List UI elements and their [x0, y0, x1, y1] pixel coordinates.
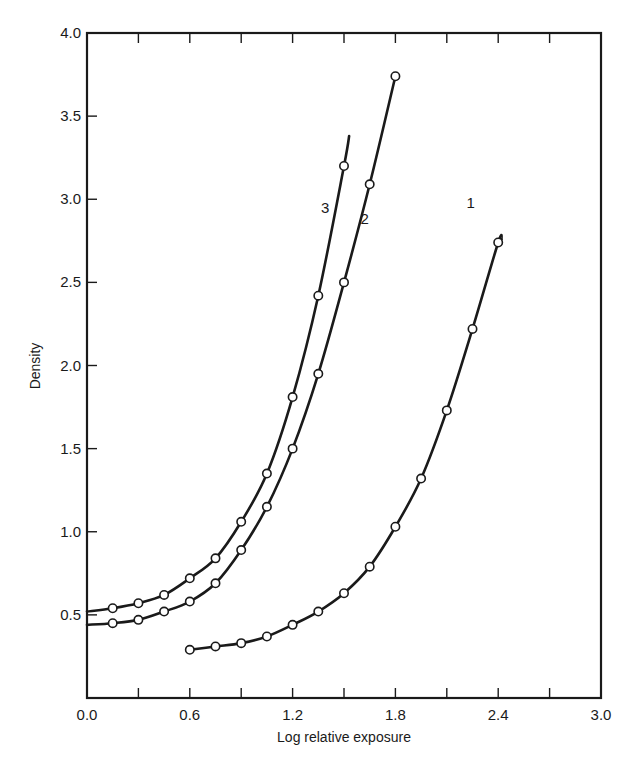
- data-point-marker: [211, 642, 219, 650]
- data-point-marker: [109, 604, 117, 612]
- data-point-marker: [340, 278, 348, 286]
- data-point-marker: [314, 291, 322, 299]
- data-point-marker: [288, 621, 296, 629]
- data-point-marker: [237, 639, 245, 647]
- data-point-marker: [109, 619, 117, 627]
- data-point-marker: [468, 325, 476, 333]
- data-point-marker: [263, 469, 271, 477]
- curve-labels: 123: [321, 194, 475, 228]
- y-tick-label: 3.5: [60, 107, 81, 124]
- data-point-marker: [263, 503, 271, 511]
- x-tick-label: 1.2: [282, 706, 303, 723]
- data-point-marker: [160, 607, 168, 615]
- data-point-marker: [366, 180, 374, 188]
- curve-label-2: 2: [360, 210, 368, 227]
- data-point-marker: [391, 72, 399, 80]
- x-tick-label: 0.0: [77, 706, 98, 723]
- data-point-marker: [134, 599, 142, 607]
- curve-1: [190, 235, 502, 650]
- y-tick-label: 2.0: [60, 357, 81, 374]
- data-point-marker: [494, 238, 502, 246]
- data-point-marker: [186, 597, 194, 605]
- data-point-marker: [237, 518, 245, 526]
- y-tick-label: 1.0: [60, 523, 81, 540]
- y-tick-label: 3.0: [60, 190, 81, 207]
- data-point-marker: [211, 554, 219, 562]
- data-point-marker: [288, 393, 296, 401]
- curve-2: [87, 76, 395, 625]
- curve-3: [87, 136, 349, 611]
- data-point-marker: [391, 523, 399, 531]
- x-tick-label: 1.8: [385, 706, 406, 723]
- curve-label-3: 3: [321, 199, 329, 216]
- data-point-marker: [160, 591, 168, 599]
- x-tick-label: 2.4: [488, 706, 509, 723]
- data-point-marker: [366, 562, 374, 570]
- data-point-marker: [417, 474, 425, 482]
- x-axis-label: Log relative exposure: [277, 729, 411, 745]
- data-point-marker: [288, 444, 296, 452]
- density-exposure-chart: 0.00.61.21.82.43.00.51.01.52.02.53.03.54…: [0, 0, 633, 766]
- data-point-marker: [443, 406, 451, 414]
- x-tick-label: 0.6: [179, 706, 200, 723]
- y-tick-label: 1.5: [60, 440, 81, 457]
- data-point-marker: [314, 370, 322, 378]
- data-point-marker: [211, 579, 219, 587]
- data-point-marker: [237, 546, 245, 554]
- x-tick-label: 3.0: [591, 706, 612, 723]
- data-point-marker: [186, 574, 194, 582]
- y-tick-label: 4.0: [60, 24, 81, 41]
- data-point-marker: [340, 162, 348, 170]
- curves: [87, 76, 502, 650]
- data-markers: [109, 72, 503, 654]
- data-point-marker: [314, 607, 322, 615]
- y-tick-label: 0.5: [60, 606, 81, 623]
- y-axis-label: Density: [27, 343, 43, 390]
- data-point-marker: [134, 616, 142, 624]
- y-tick-label: 2.5: [60, 273, 81, 290]
- data-point-marker: [263, 632, 271, 640]
- data-point-marker: [340, 589, 348, 597]
- curve-label-1: 1: [467, 194, 475, 211]
- data-point-marker: [186, 646, 194, 654]
